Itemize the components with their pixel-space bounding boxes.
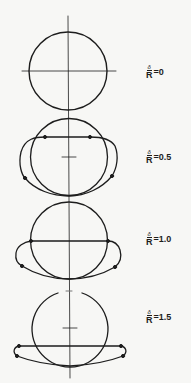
ratio-fraction: δ R <box>146 309 153 325</box>
ratio-fraction: δ R <box>146 64 153 80</box>
ratio-label-0: δ R = 0 <box>146 64 164 80</box>
node-dot <box>88 135 91 138</box>
node-dot <box>121 354 124 357</box>
node-dot <box>119 344 122 347</box>
vertical-axis <box>68 16 70 378</box>
node-dot <box>106 239 109 242</box>
ratio-label-1.5: δ R = 1.5 <box>146 309 171 325</box>
ratio-label-0.5: δ R = 0.5 <box>146 149 171 165</box>
panel-1.0-shape <box>16 202 121 279</box>
panel-0-shape <box>22 32 116 110</box>
ratio-value: 0 <box>159 67 164 77</box>
ratio-fraction: δ R <box>146 149 153 165</box>
node-dot <box>20 264 23 267</box>
deformation-diagram <box>0 0 191 383</box>
ratio-label-1.0: δ R = 1.0 <box>146 231 171 247</box>
node-dot <box>15 354 18 357</box>
ratio-fraction: δ R <box>146 231 153 247</box>
ratio-value: 1.5 <box>159 312 172 322</box>
denominator: R <box>146 156 153 165</box>
denominator: R <box>146 238 153 247</box>
ratio-value: 0.5 <box>159 152 172 162</box>
node-dot <box>29 239 32 242</box>
node-dot <box>110 174 113 177</box>
node-dot <box>23 176 26 179</box>
node-dot <box>43 135 46 138</box>
denominator: R <box>146 316 153 325</box>
node-dot <box>17 344 20 347</box>
node-dot <box>113 265 116 268</box>
denominator: R <box>146 71 153 80</box>
ratio-value: 1.0 <box>159 234 172 244</box>
